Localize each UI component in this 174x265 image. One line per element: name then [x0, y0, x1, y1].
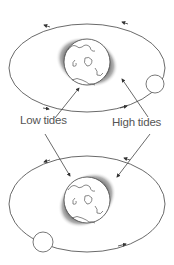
top-panel [9, 22, 165, 118]
high-tides-label: High tides [112, 116, 161, 128]
top-orbit-arrow-upper-left [44, 25, 50, 27]
tides-diagram [0, 0, 174, 265]
top-orbit-arrow-lower-right [120, 106, 127, 108]
top-orbit-arrow-lower-left [43, 108, 49, 109]
top-moon [146, 75, 164, 93]
bottom-moon [33, 232, 53, 252]
bottom-earth [64, 177, 110, 223]
bottom-orbit-arrow-upper-right [124, 158, 130, 160]
bottom-low-tide-pointer [45, 134, 70, 176]
bottom-panel [9, 134, 165, 252]
bottom-high-tide-pointer [117, 134, 150, 177]
top-orbit-arrow-upper-right [122, 22, 128, 24]
top-earth [64, 39, 110, 85]
bottom-orbit-arrow-lower-right [118, 244, 126, 246]
low-tides-label: Low tides [20, 114, 67, 126]
